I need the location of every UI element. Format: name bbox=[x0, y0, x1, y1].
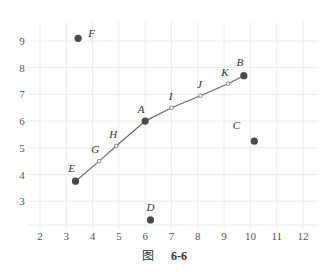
connecting-line bbox=[76, 76, 244, 181]
axis-tick-labels: 234567891011123456789 bbox=[19, 35, 308, 242]
point-label: H bbox=[108, 128, 118, 140]
figure-caption-number: 6-6 bbox=[171, 249, 187, 264]
point-label: E bbox=[67, 162, 75, 174]
point-label: A bbox=[137, 103, 145, 115]
x-tick-label: 8 bbox=[195, 230, 201, 242]
point-label: D bbox=[145, 201, 154, 213]
x-tick-label: 6 bbox=[142, 230, 148, 242]
data-points: ABCDEFGHIJK bbox=[67, 27, 258, 223]
point-marker-small bbox=[226, 82, 230, 86]
y-tick-label: 5 bbox=[19, 142, 25, 154]
point-label: I bbox=[168, 90, 174, 102]
data-point-H: H bbox=[108, 128, 118, 148]
point-label: J bbox=[197, 78, 203, 90]
data-point-E: E bbox=[67, 162, 79, 185]
point-marker bbox=[72, 178, 79, 185]
point-marker-small bbox=[114, 144, 118, 148]
y-tick-label: 9 bbox=[19, 35, 25, 47]
data-point-F: F bbox=[75, 27, 96, 42]
x-tick-label: 9 bbox=[221, 230, 227, 242]
point-marker bbox=[251, 138, 258, 145]
point-label: K bbox=[220, 66, 229, 78]
data-point-I: I bbox=[168, 90, 174, 110]
data-point-D: D bbox=[145, 201, 154, 224]
y-tick-label: 8 bbox=[19, 62, 25, 74]
x-tick-label: 4 bbox=[90, 230, 96, 242]
x-tick-label: 2 bbox=[37, 230, 43, 242]
point-marker-small bbox=[199, 94, 203, 98]
x-tick-label: 3 bbox=[64, 230, 70, 242]
grid-lines bbox=[28, 22, 318, 229]
figure-caption-prefix: 图 bbox=[142, 246, 154, 264]
point-label: C bbox=[233, 119, 241, 131]
figure-caption: 图 6-6 bbox=[0, 246, 329, 264]
y-tick-label: 7 bbox=[19, 88, 25, 100]
scatter-chart: 234567891011123456789 ABCDEFGHIJK bbox=[0, 0, 329, 272]
x-tick-label: 5 bbox=[116, 230, 122, 242]
x-tick-label: 12 bbox=[298, 230, 309, 242]
data-point-K: K bbox=[220, 66, 229, 86]
point-label: G bbox=[91, 143, 99, 155]
y-tick-label: 3 bbox=[19, 195, 25, 207]
point-label: F bbox=[87, 27, 95, 39]
point-marker bbox=[142, 118, 149, 125]
y-tick-label: 6 bbox=[19, 115, 25, 127]
x-tick-label: 10 bbox=[245, 230, 257, 242]
point-marker bbox=[75, 35, 82, 42]
data-point-C: C bbox=[233, 119, 258, 145]
point-marker bbox=[147, 216, 154, 223]
point-marker-small bbox=[170, 106, 174, 110]
x-tick-label: 11 bbox=[271, 230, 282, 242]
polyline-path bbox=[76, 76, 244, 181]
point-label: B bbox=[236, 56, 243, 68]
point-marker bbox=[240, 72, 247, 79]
y-tick-label: 4 bbox=[19, 169, 25, 181]
point-marker-small bbox=[97, 159, 101, 163]
x-tick-label: 7 bbox=[169, 230, 175, 242]
chart-canvas: 234567891011123456789 ABCDEFGHIJK bbox=[0, 0, 329, 272]
